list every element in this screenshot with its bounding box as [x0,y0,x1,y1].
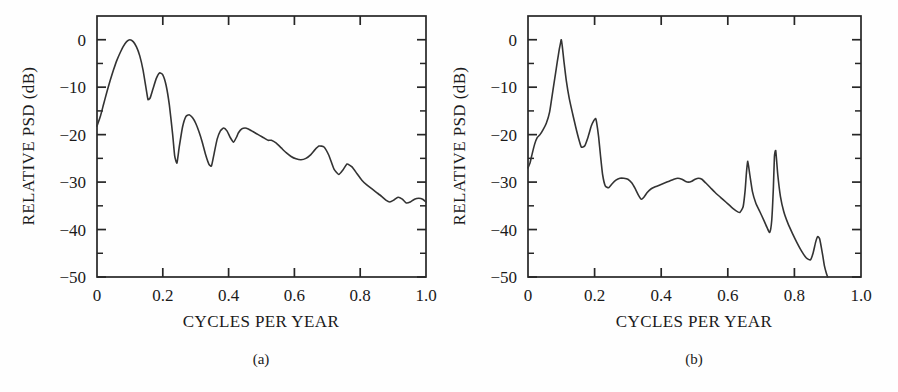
x-axis-tick-labels-b: 00.20.40.60.81.0 [524,286,872,305]
y-tick-label: −30 [59,173,86,192]
x-tick-label: 0.8 [350,286,371,305]
x-axis-title-a: CYCLES PER YEAR [183,312,340,331]
y-tick-label: 0 [509,31,518,50]
figure-container: 0−10−20−30−40−50 00.20.40.60.81.0 CYCLES… [0,0,898,392]
y-axis-ticks-b [528,40,861,277]
x-axis-title-b: CYCLES PER YEAR [616,312,773,331]
x-axis-tick-labels-a: 00.20.40.60.81.0 [93,286,437,305]
y-tick-label: −50 [59,268,86,287]
x-tick-label: 0.8 [784,286,805,305]
y-tick-label: 0 [78,31,87,50]
psd-curve-b [528,40,828,277]
y-axis-title-a: RELATIVE PSD (dB) [19,67,38,226]
y-tick-label: −10 [59,78,86,97]
x-axis-ticks-a [163,16,360,277]
x-tick-label: 0 [524,286,533,305]
y-axis-title-b: RELATIVE PSD (dB) [450,67,469,226]
chart-panel-b: 0−10−20−30−40−50 00.20.40.60.81.0 CYCLES… [449,0,898,392]
x-axis-ticks-b [595,16,795,277]
psd-curve-a [97,40,426,203]
y-tick-label: −40 [490,221,517,240]
y-tick-label: −30 [490,173,517,192]
x-tick-label: 0.4 [218,286,240,305]
plot-frame-a [97,16,426,277]
x-tick-label: 0 [93,286,102,305]
y-axis-ticks-a [97,40,426,277]
y-axis-tick-labels-a: 0−10−20−30−40−50 [59,31,86,287]
plot-frame-b [528,16,861,277]
y-tick-label: −10 [490,78,517,97]
y-tick-label: −20 [490,126,517,145]
y-axis-tick-labels-b: 0−10−20−30−40−50 [490,31,517,287]
chart-panel-a: 0−10−20−30−40−50 00.20.40.60.81.0 CYCLES… [0,0,449,392]
x-tick-label: 1.0 [850,286,871,305]
x-tick-label: 0.2 [152,286,173,305]
y-tick-label: −50 [490,268,517,287]
chart-svg-a: 0−10−20−30−40−50 00.20.40.60.81.0 CYCLES… [0,0,449,392]
x-tick-label: 0.2 [584,286,605,305]
x-tick-label: 0.6 [284,286,305,305]
y-tick-label: −20 [59,126,86,145]
panel-caption-a: (a) [253,351,270,368]
x-tick-label: 0.6 [717,286,738,305]
panel-caption-b: (b) [685,351,703,368]
y-tick-label: −40 [59,221,86,240]
x-tick-label: 1.0 [415,286,436,305]
chart-svg-b: 0−10−20−30−40−50 00.20.40.60.81.0 CYCLES… [449,0,898,392]
x-tick-label: 0.4 [651,286,673,305]
